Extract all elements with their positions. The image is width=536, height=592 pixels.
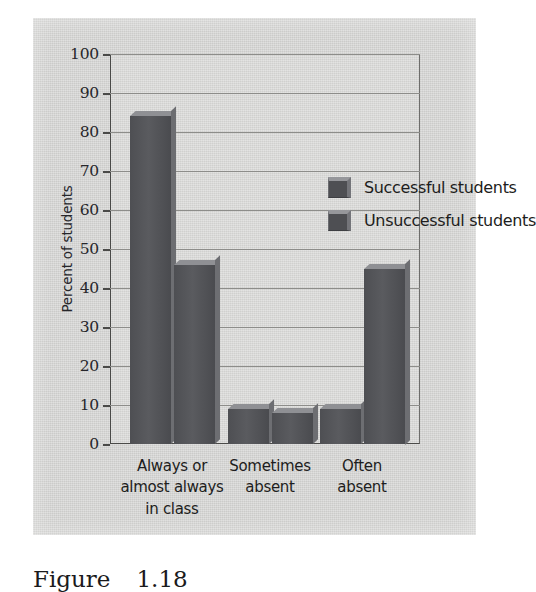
x-axis-category-line: in class <box>92 499 252 520</box>
y-tick-70 <box>103 171 110 173</box>
bar-3-series-2 <box>364 269 405 445</box>
y-tick-0 <box>103 444 110 446</box>
y-tick-50 <box>103 249 110 251</box>
bar-face <box>272 413 313 444</box>
y-axis-title-text: Percent of students <box>59 185 75 312</box>
y-tick-label-90: 90 <box>80 84 99 102</box>
y-tick-label-100: 100 <box>70 45 99 63</box>
bar-top-bevel <box>320 404 367 409</box>
bar-face <box>130 116 171 444</box>
caption-word: Figure <box>33 566 110 592</box>
x-axis-category-3: Oftenabsent <box>282 456 442 499</box>
legend-item-1: Successful students <box>328 171 536 204</box>
x-axis-category-line: absent <box>282 477 442 498</box>
y-tick-label-0: 0 <box>89 435 99 453</box>
y-tick-label-50: 50 <box>80 240 99 258</box>
bar-top-bevel <box>174 260 221 265</box>
y-tick-label-40: 40 <box>80 279 99 297</box>
y-tick-label-10: 10 <box>80 396 99 414</box>
bar-top-bevel <box>272 408 319 413</box>
y-tick-90 <box>103 93 110 95</box>
bar-side-bevel <box>215 255 220 444</box>
bar-face <box>320 409 361 444</box>
chart-legend: Successful studentsUnsuccessful students <box>328 171 536 237</box>
gridline-90 <box>110 93 420 94</box>
y-tick-20 <box>103 366 110 368</box>
legend-swatch-icon <box>328 210 351 231</box>
y-tick-60 <box>103 210 110 212</box>
y-tick-80 <box>103 132 110 134</box>
plot-area: 1009080706050403020100 Successful studen… <box>110 54 420 444</box>
bar-face <box>364 269 405 445</box>
gridline-100 <box>110 54 420 55</box>
bar-face <box>228 409 269 444</box>
y-tick-40 <box>103 288 110 290</box>
legend-label: Unsuccessful students <box>364 211 536 230</box>
bar-side-bevel <box>313 403 318 444</box>
x-axis-category-line: Often <box>282 456 442 477</box>
legend-swatch-icon <box>328 177 351 198</box>
y-tick-10 <box>103 405 110 407</box>
y-tick-30 <box>103 327 110 329</box>
y-axis-title: Percent of students <box>56 54 78 444</box>
y-tick-100 <box>103 54 110 56</box>
y-tick-label-70: 70 <box>80 162 99 180</box>
bar-3-series-1 <box>320 409 361 444</box>
legend-label: Successful students <box>364 178 517 197</box>
caption-number: 1.18 <box>136 566 187 592</box>
y-tick-label-30: 30 <box>80 318 99 336</box>
bar-face <box>174 265 215 444</box>
bar-2-series-1 <box>228 409 269 444</box>
legend-item-2: Unsuccessful students <box>328 204 536 237</box>
bar-1-series-1 <box>130 116 171 444</box>
bar-1-series-2 <box>174 265 215 444</box>
bar-side-bevel <box>405 259 410 444</box>
bar-2-series-2 <box>272 413 313 444</box>
bar-top-bevel <box>228 404 275 409</box>
bar-top-bevel <box>364 264 411 269</box>
bar-top-bevel <box>130 111 177 116</box>
y-tick-label-60: 60 <box>80 201 99 219</box>
figure-caption: Figure1.18 <box>33 566 188 592</box>
y-tick-label-20: 20 <box>80 357 99 375</box>
y-tick-label-80: 80 <box>80 123 99 141</box>
